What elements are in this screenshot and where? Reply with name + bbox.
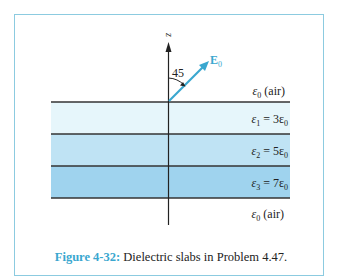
layer-label-air-bottom: ε0 (air)	[252, 207, 284, 223]
z-axis-arrowhead-icon	[166, 42, 172, 52]
figure-caption: Figure 4-32: Dielectric slabs in Problem…	[0, 250, 342, 265]
angle-label: 45	[172, 66, 184, 80]
e0-vector-label: E0	[210, 53, 222, 69]
layer-label-air-top: ε0 (air)	[253, 84, 285, 100]
caption-text: Dielectric slabs in Problem 4.47.	[120, 250, 287, 264]
z-axis-label: z	[164, 32, 175, 37]
figure-number: Figure 4-32:	[55, 250, 120, 264]
